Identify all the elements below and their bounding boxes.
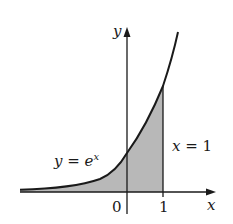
tick-label-1: 1 (159, 200, 169, 215)
shaded-region (20, 86, 163, 192)
y-axis-label: y (113, 24, 121, 39)
line-label: x = 1 (172, 139, 212, 154)
curve-label: y = ex (54, 152, 99, 169)
curve-label-eq: = (62, 152, 84, 170)
line-label-eq: = 1 (180, 137, 212, 155)
x-axis-label: x (207, 198, 215, 213)
y-axis-arrow-icon (124, 27, 131, 37)
curve-label-exp: x (93, 151, 99, 162)
tick-label-0: 0 (112, 200, 122, 215)
figure: y y = ex x = 1 0 1 x (0, 0, 233, 224)
x-axis-arrow-icon (206, 189, 216, 196)
